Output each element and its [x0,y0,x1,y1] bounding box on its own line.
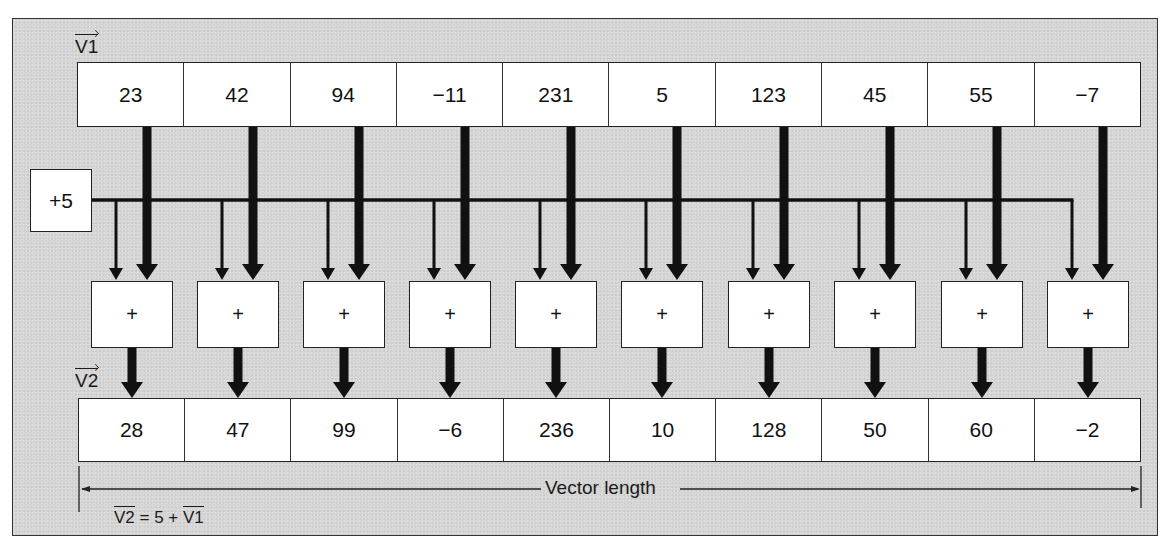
arrow-head-icon [136,264,158,280]
v1-input-bar [355,127,364,265]
formula-lhs: V2 [114,508,135,528]
arrow-head-icon [773,264,795,280]
v1-cell: −7 [1034,63,1140,126]
v2-cell: 236 [503,399,609,461]
v1-cell: 123 [715,63,821,126]
arrow-head-icon [454,264,476,280]
v2-cell: 99 [290,399,396,461]
arrow-head-icon [227,382,249,398]
arrow-head-icon [545,382,567,398]
v2-cell: 60 [928,399,1034,461]
adder-box: + [941,281,1023,348]
v2-cell: −2 [1034,399,1140,461]
v1-input-bar [673,127,682,265]
arrow-head-icon [1077,382,1099,398]
v1-label: V1 [75,37,98,57]
v1-vector-row: 23 42 94 −11 231 5 123 45 55 −7 [77,62,1141,127]
arrow-head-icon [109,268,123,280]
v1-input-bar [567,127,576,265]
arrow-head-icon [242,264,264,280]
adder-box: + [197,281,279,348]
v2-cell: 10 [609,399,715,461]
v1-input-bar [1099,127,1108,265]
v1-cell: 5 [608,63,714,126]
arrow-head-icon [852,268,866,280]
v2-output-bar [128,348,137,383]
arrow-head-icon [971,382,993,398]
v2-cell: 47 [184,399,290,461]
v1-input-bar [993,127,1002,265]
v2-vector-row: 28 47 99 −6 236 10 128 50 60 −2 [78,398,1141,462]
v1-input-bar [780,127,789,265]
v2-cell: −6 [397,399,503,461]
adder-box: + [409,281,491,348]
v1-cell: 94 [290,63,396,126]
adder-box: + [834,281,916,348]
adder-box: + [91,281,173,348]
arrow-head-icon [639,268,653,280]
arrow-head-icon [651,382,673,398]
constant-box: +5 [30,169,92,232]
v2-output-bar [234,348,243,383]
v1-input-bar [461,127,470,265]
arrow-head-icon [439,382,461,398]
v2-output-bar [340,348,349,383]
v2-cell: 128 [715,399,821,461]
v1-cell: 23 [78,63,183,126]
v2-label: V2 [75,371,98,391]
arrow-head-icon [758,382,780,398]
arrow-head-icon [427,268,441,280]
arrow-head-icon [560,264,582,280]
v1-cell: 45 [821,63,927,126]
v2-output-bar [552,348,561,383]
v1-input-bar [886,127,895,265]
arrow-head-icon [959,268,973,280]
vector-length-label: Vector length [543,477,658,499]
arrow-head-icon [533,268,547,280]
v2-output-bar [978,348,987,383]
formula: V2 = 5 + V1 [114,508,204,528]
v2-output-bar [765,348,774,383]
v2-output-bar [658,348,667,383]
v1-vector-symbol: V1 [75,37,98,57]
v1-input-bar [143,127,152,265]
v1-input-bar [249,127,258,265]
arrow-left-icon [81,486,90,492]
arrow-head-icon [1065,268,1079,280]
arrow-head-icon [986,264,1008,280]
v2-cell: 28 [79,399,184,461]
v1-cell: 231 [502,63,608,126]
adder-box: + [728,281,810,348]
arrow-head-icon [321,268,335,280]
arrow-head-icon [746,268,760,280]
formula-middle: = 5 + [135,508,183,527]
v2-cell: 50 [821,399,927,461]
v1-cell: 42 [183,63,289,126]
v2-vector-symbol: V2 [75,371,98,391]
adder-box: + [1047,281,1129,348]
arrow-head-icon [348,264,370,280]
arrow-head-icon [864,382,886,398]
v1-cell: 55 [927,63,1033,126]
arrow-head-icon [121,382,143,398]
v2-output-bar [871,348,880,383]
arrow-right-icon [1131,486,1140,492]
adder-box: + [303,281,385,348]
v1-cell: −11 [396,63,502,126]
v2-output-bar [1084,348,1093,383]
adder-box: + [621,281,703,348]
arrow-head-icon [333,382,355,398]
arrow-head-icon [666,264,688,280]
formula-rhs: V1 [183,508,204,528]
v2-output-bar [446,348,455,383]
arrow-head-icon [1092,264,1114,280]
arrow-head-icon [879,264,901,280]
adder-box: + [515,281,597,348]
arrow-head-icon [215,268,229,280]
